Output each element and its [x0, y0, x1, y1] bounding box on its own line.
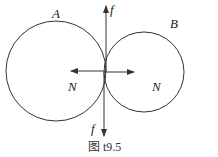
- wheel-a-normal-label: N: [67, 79, 78, 94]
- figure-caption: 图 t9.5: [88, 140, 121, 154]
- force-diagram: A f N B N f 图 t9.5: [0, 0, 218, 157]
- wheel-a-label: A: [51, 6, 60, 21]
- wheel-b-normal-label: N: [151, 79, 162, 94]
- wheel-b-label: B: [170, 16, 178, 31]
- wheel-a-friction-label: f: [110, 2, 116, 17]
- wheel-b-friction-label: f: [91, 121, 97, 136]
